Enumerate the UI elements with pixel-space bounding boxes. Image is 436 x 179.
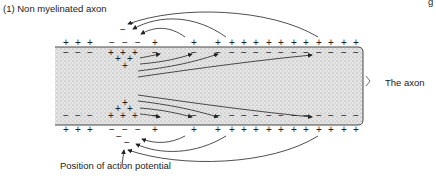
svg-text:−: −	[241, 47, 247, 58]
svg-text:+: +	[63, 124, 69, 135]
svg-text:−: −	[316, 110, 322, 121]
svg-text:−: −	[316, 47, 322, 58]
svg-text:−: −	[75, 47, 81, 58]
svg-text:−: −	[135, 124, 141, 135]
svg-text:+: +	[253, 124, 259, 135]
svg-text:+: +	[229, 124, 235, 135]
svg-text:+: +	[215, 124, 221, 135]
svg-text:+: +	[266, 124, 272, 135]
svg-text:+: +	[127, 53, 133, 64]
svg-text:−: −	[266, 110, 272, 121]
svg-text:−: −	[353, 47, 359, 58]
svg-text:−: −	[303, 47, 309, 58]
svg-text:+: +	[120, 110, 126, 121]
svg-text:+: +	[241, 124, 247, 135]
svg-text:+: +	[291, 124, 297, 135]
svg-text:+: +	[278, 124, 284, 135]
svg-text:−: −	[341, 110, 347, 121]
svg-text:−: −	[215, 110, 221, 121]
svg-text:−: −	[229, 47, 235, 58]
svg-text:+: +	[108, 110, 114, 121]
svg-text:−: −	[328, 47, 334, 58]
svg-text:+: +	[115, 53, 121, 64]
svg-text:−: −	[87, 110, 93, 121]
svg-text:−: −	[241, 110, 247, 121]
svg-text:+: +	[120, 47, 126, 58]
svg-text:−: −	[191, 47, 197, 58]
svg-text:−: −	[215, 47, 221, 58]
svg-text:+: +	[87, 124, 93, 135]
svg-text:−: −	[120, 24, 126, 35]
svg-text:−: −	[122, 124, 128, 135]
svg-text:+: +	[108, 47, 114, 58]
svg-text:−: −	[303, 110, 309, 121]
svg-text:+: +	[353, 124, 359, 135]
action-potential-label: Position of action potential	[60, 160, 171, 171]
axon-brace	[366, 76, 370, 86]
svg-text:+: +	[75, 124, 81, 135]
svg-text:+: +	[191, 124, 197, 135]
svg-text:−: −	[75, 110, 81, 121]
svg-text:+: +	[122, 60, 128, 71]
svg-text:+: +	[303, 124, 309, 135]
svg-text:−: −	[191, 110, 197, 121]
svg-text:−: −	[278, 47, 284, 58]
svg-text:+: +	[132, 110, 138, 121]
svg-text:−: −	[124, 137, 130, 148]
svg-text:+: +	[316, 124, 322, 135]
svg-text:−: −	[253, 47, 259, 58]
svg-text:−: −	[253, 110, 259, 121]
svg-text:−: −	[328, 110, 334, 121]
svg-text:+: +	[152, 124, 158, 135]
svg-text:−: −	[266, 47, 272, 58]
svg-text:+: +	[328, 124, 334, 135]
axon-diagram: +++ −−− ++ ++++ ++++ ++++ −− −−− +++ +++…	[0, 0, 436, 179]
svg-text:−: −	[229, 110, 235, 121]
svg-text:+: +	[132, 47, 138, 58]
axon-label: The axon	[385, 77, 425, 88]
svg-text:−: −	[63, 110, 69, 121]
svg-text:−: −	[353, 110, 359, 121]
svg-text:−: −	[63, 47, 69, 58]
svg-text:+: +	[341, 124, 347, 135]
svg-text:−: −	[278, 110, 284, 121]
svg-text:−: −	[152, 47, 158, 58]
svg-text:−: −	[87, 47, 93, 58]
svg-text:−: −	[116, 131, 122, 142]
svg-text:−: −	[109, 124, 115, 135]
svg-text:−: −	[341, 47, 347, 58]
